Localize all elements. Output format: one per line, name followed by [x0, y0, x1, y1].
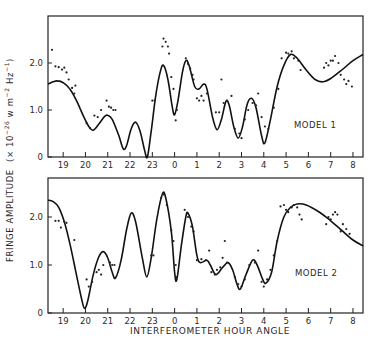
data-point — [296, 206, 298, 208]
y-label-exp1: −26 — [3, 120, 10, 134]
data-point — [343, 78, 345, 80]
data-point — [196, 259, 198, 261]
data-point — [108, 106, 110, 108]
x-tick-label: 23 — [147, 160, 158, 170]
y-label-units2: w m — [5, 97, 15, 120]
x-tick-label: 19 — [58, 160, 69, 170]
data-point — [152, 254, 154, 256]
data-point — [110, 107, 112, 109]
data-point — [244, 278, 246, 280]
y-label-close: ) — [5, 58, 15, 62]
data-point — [114, 109, 116, 111]
data-point — [334, 211, 336, 213]
y-tick-label: 1.0 — [29, 105, 43, 115]
data-point — [291, 50, 293, 52]
data-point — [86, 278, 88, 280]
data-point — [269, 269, 271, 271]
data-point — [266, 278, 268, 280]
data-point — [100, 274, 102, 276]
data-point — [205, 259, 207, 261]
data-point — [332, 214, 334, 216]
data-point — [154, 100, 156, 102]
data-point — [187, 216, 189, 218]
data-point — [98, 269, 100, 271]
data-point — [165, 41, 167, 43]
data-point — [184, 209, 186, 211]
x-tick-label: 2 — [216, 160, 221, 170]
data-point — [208, 250, 210, 252]
data-point — [323, 67, 325, 69]
data-point — [172, 88, 174, 90]
data-point — [71, 87, 73, 89]
data-point — [234, 276, 236, 278]
data-point — [261, 116, 263, 118]
data-point — [254, 262, 256, 264]
model-1-label: MODEL 1 — [294, 120, 336, 130]
data-point — [191, 74, 193, 76]
data-point — [73, 92, 75, 94]
x-tick-label: 23 — [147, 316, 158, 326]
x-axis-ticks-bottom: 1920212223012345678 — [58, 308, 356, 326]
data-point — [170, 76, 172, 78]
data-point — [345, 228, 347, 230]
data-point — [214, 274, 216, 276]
x-tick-label: 22 — [125, 160, 136, 170]
data-point — [190, 226, 192, 228]
data-point — [285, 209, 287, 211]
data-point — [285, 52, 287, 54]
data-point — [336, 214, 338, 216]
data-point — [73, 239, 75, 241]
data-point — [68, 78, 70, 80]
x-tick-label: 1 — [194, 316, 199, 326]
x-tick-label: 20 — [80, 316, 91, 326]
data-point — [300, 69, 302, 71]
data-point — [170, 229, 172, 231]
data-point — [281, 57, 283, 59]
plot-frame-bottom — [48, 178, 363, 313]
data-point — [151, 100, 153, 102]
model-1-curve — [48, 54, 363, 158]
data-point — [287, 53, 289, 55]
data-point — [91, 281, 93, 283]
data-point — [176, 276, 178, 278]
data-point — [193, 230, 195, 232]
data-point — [234, 128, 236, 130]
x-tick-label: 19 — [58, 316, 69, 326]
data-point — [330, 218, 332, 220]
data-point — [248, 264, 250, 266]
x-tick-label: 2 — [216, 316, 221, 326]
data-point — [293, 57, 295, 59]
data-point — [112, 109, 114, 111]
data-point — [237, 283, 239, 285]
data-point — [297, 60, 299, 62]
data-point — [51, 49, 53, 51]
data-point — [60, 227, 62, 229]
data-point — [263, 286, 265, 288]
y-label-units: (× 10 — [5, 135, 15, 162]
data-point — [74, 85, 76, 87]
data-point — [206, 92, 208, 94]
data-point — [61, 69, 63, 71]
x-tick-label: 1 — [194, 160, 199, 170]
data-point — [198, 100, 200, 102]
y-label-main: FRINGE AMPLITUDE — [5, 169, 15, 262]
data-point — [89, 127, 91, 129]
data-point — [247, 109, 249, 111]
data-point — [345, 83, 347, 85]
data-point — [257, 92, 259, 94]
x-tick-label: 7 — [328, 316, 333, 326]
y-tick-label: 2.0 — [29, 212, 43, 222]
data-point — [226, 262, 228, 264]
data-point — [337, 62, 339, 64]
data-point — [54, 65, 56, 67]
data-point — [166, 204, 168, 206]
data-point — [224, 240, 226, 242]
data-point — [63, 221, 65, 223]
y-axis-ticks-bottom: 01.02.0 — [29, 212, 52, 318]
data-point — [230, 95, 232, 97]
data-point — [162, 193, 164, 195]
x-tick-label: 4 — [261, 160, 266, 170]
data-point — [327, 64, 329, 66]
data-point — [100, 109, 102, 111]
data-point — [210, 271, 212, 273]
